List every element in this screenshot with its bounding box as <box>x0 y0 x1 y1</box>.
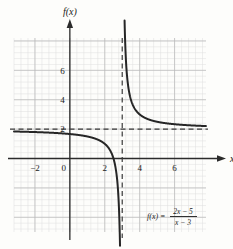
rational-function-plot: −20246 246 f(x) x f(x) = 2x − 5 x − 3 <box>0 0 233 249</box>
left-branch-curve <box>14 131 120 245</box>
x-axis-label: x <box>229 153 233 164</box>
y-axis-label: f(x) <box>63 6 78 18</box>
x-tick-label: 2 <box>103 163 108 173</box>
right-branch-curve <box>125 20 206 126</box>
grid-minor-lines <box>14 38 206 232</box>
y-axis-arrow <box>67 19 73 28</box>
x-tick-label: 6 <box>172 163 177 173</box>
y-tick-label: 6 <box>60 66 65 76</box>
formula-left-side: f(x) = <box>147 212 166 221</box>
x-tick-label: −2 <box>30 163 40 173</box>
formula-numerator: 2x − 5 <box>173 207 193 216</box>
function-formula-annotation: f(x) = 2x − 5 x − 3 <box>147 207 197 227</box>
x-tick-label: 4 <box>137 163 142 173</box>
y-tick-label: 4 <box>60 95 65 105</box>
x-tick-label: 0 <box>62 163 67 173</box>
graph-figure: −20246 246 f(x) x f(x) = 2x − 5 x − 3 <box>0 0 233 249</box>
y-tick-label: 2 <box>60 124 65 134</box>
x-tick-labels: −20246 <box>30 163 177 173</box>
x-axis-arrow <box>217 155 226 161</box>
formula-denominator: x − 3 <box>174 218 191 227</box>
